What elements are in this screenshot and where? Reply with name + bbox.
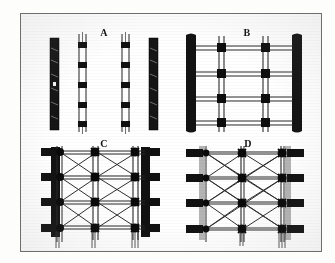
figure-b-rails [196,46,293,125]
figure-a-member-1 [50,38,59,130]
figure-d-drawing [173,136,319,250]
figure-a-member-3 [121,32,130,134]
figure-c-panel: C [27,136,175,250]
figure-d-post-left [186,146,205,240]
figure-a-member-2 [78,32,87,134]
figure-b-post-right [292,34,302,133]
figure-d-rails [203,152,288,230]
figure-c-label: C [97,138,111,149]
figure-a-drawing [39,22,169,140]
figure-c-post-right [141,147,160,237]
figure-b-drawing [177,22,313,140]
figure-d-post-right [285,146,304,240]
figure-d-member-tails [240,232,285,248]
figure-b-junction-blocks [217,43,270,127]
figure-c-drawing [27,136,175,250]
figure-a-label: A [97,27,111,38]
figure-d-label: D [241,138,255,149]
figure-c-member-tails [56,232,138,248]
plate-frame: A [20,13,322,252]
figure-c-rails [57,151,145,229]
figure-a-panel: A [39,22,169,140]
figure-a-member-4 [149,38,158,130]
figure-b-post-left [186,34,196,133]
figure-b-label: B [240,27,254,38]
figure-b-panel: B [177,22,313,140]
figure-d-panel: D [173,136,319,250]
